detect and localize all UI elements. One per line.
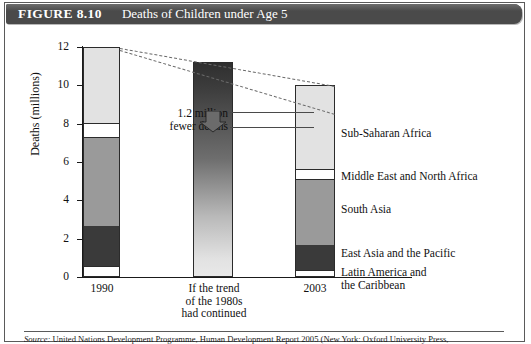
legend-label-east-asia-pacific: East Asia and the Pacific [341, 247, 455, 259]
figure-number: FIGURE 8.10 [18, 6, 102, 22]
legend-label-latin-america-caribbean-line-2: the Caribbean [341, 279, 427, 292]
source-divider [24, 331, 504, 332]
x-label-1990: 1990 [77, 282, 127, 295]
bar-projected-gradient-fill [194, 63, 232, 276]
x-label-projection-line-1: If the trend [168, 282, 260, 295]
bar-1990-segment-middle-east-north-africa [84, 123, 119, 138]
annotation-rule-bottom [230, 127, 314, 128]
y-tick-0 [77, 277, 82, 278]
legend-label-sub-saharan-africa: Sub-Saharan Africa [341, 127, 431, 139]
x-label-2003-line-1: 2003 [290, 282, 340, 295]
y-tick-label-0: 0 [9, 270, 69, 282]
bar-2003 [295, 85, 335, 277]
legend-item-middle-east-north-africa: Middle East and North Africa [341, 170, 478, 183]
bar-1990-segment-east-asia-pacific [84, 226, 119, 266]
y-tick-8 [77, 124, 82, 125]
x-label-projection-line-3: had continued [168, 307, 260, 320]
x-label-projection: If the trend of the 1980s had continued [168, 282, 260, 320]
legend-item-latin-america-caribbean: Latin America and the Caribbean [341, 266, 427, 292]
y-tick-2 [77, 239, 82, 240]
chart-plot-area: 0 2 4 6 8 10 12 Deaths (millions) 1.2 mi… [0, 26, 521, 318]
legend-label-middle-east-north-africa: Middle East and North Africa [341, 170, 478, 182]
y-axis-label-wrap: Deaths (millions) [25, 34, 41, 194]
y-axis-label: Deaths (millions) [28, 72, 42, 156]
legend-label-latin-america-caribbean-line-1: Latin America and [341, 266, 427, 279]
source-label: Source: [24, 334, 50, 344]
source-note: Source: United Nations Development Progr… [24, 334, 524, 344]
bar-2003-segment-latin-america-caribbean [296, 270, 334, 277]
bar-1990 [83, 47, 120, 277]
legend-item-sub-saharan-africa: Sub-Saharan Africa [341, 127, 431, 140]
figure-title: Deaths of Children under Age 5 [122, 6, 288, 22]
y-tick-12 [77, 47, 82, 48]
bar-1990-segment-sub-saharan-africa [84, 48, 119, 123]
y-tick-label-2: 2 [9, 232, 69, 244]
source-text: United Nations Development Programme, Hu… [50, 334, 448, 344]
y-tick-4 [77, 200, 82, 201]
legend-label-south-asia: South Asia [341, 203, 391, 215]
bar-1990-segment-south-asia [84, 138, 119, 226]
x-label-2003: 2003 [290, 282, 340, 295]
bar-2003-segment-middle-east-north-africa [296, 169, 334, 181]
annotation-rule-top [230, 112, 314, 113]
x-label-projection-line-2: of the 1980s [168, 295, 260, 308]
bar-1990-segment-latin-america-caribbean [84, 266, 119, 277]
figure-header-bar: FIGURE 8.10 Deaths of Children under Age… [6, 4, 522, 24]
legend-item-south-asia: South Asia [341, 203, 391, 216]
bar-2003-segment-east-asia-pacific [296, 245, 334, 270]
y-tick-6 [77, 162, 82, 163]
bar-2003-segment-south-asia [296, 180, 334, 245]
down-arrow-icon [199, 111, 227, 133]
y-tick-10 [77, 85, 82, 86]
bar-projected-trend [193, 62, 233, 277]
y-tick-label-4: 4 [9, 193, 69, 205]
legend-item-east-asia-pacific: East Asia and the Pacific [341, 247, 455, 260]
x-label-1990-line-1: 1990 [77, 282, 127, 295]
